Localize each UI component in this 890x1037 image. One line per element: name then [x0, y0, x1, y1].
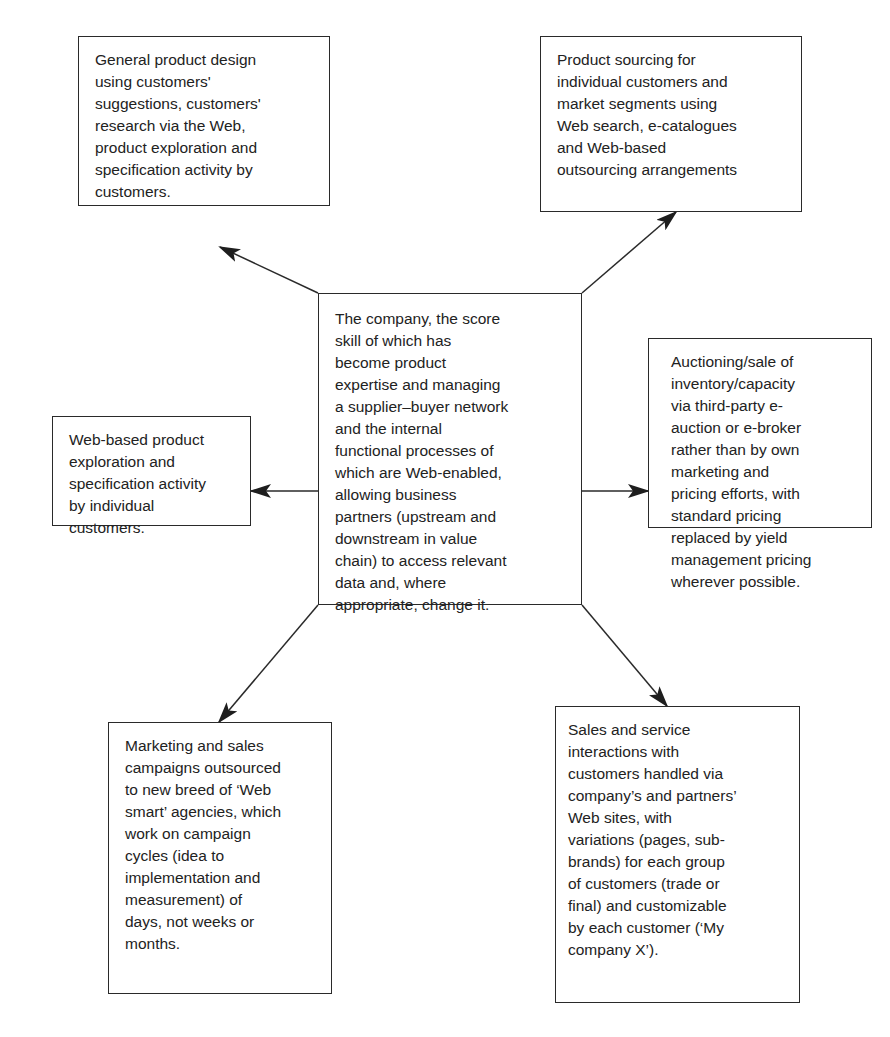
node-top-left: General product design using customers' … — [78, 36, 330, 206]
arrow-to-bottom-right — [582, 605, 667, 706]
arrow-to-top-right — [582, 212, 676, 293]
node-bottom-right: Sales and service interactions with cust… — [555, 706, 800, 1003]
node-left: Web-based product exploration and specif… — [52, 416, 251, 526]
node-right: Auctioning/sale of inventory/capacity vi… — [648, 338, 872, 528]
arrow-to-bottom-left — [219, 605, 318, 722]
node-center: The company, the score skill of which ha… — [318, 293, 582, 605]
diagram-canvas: General product design using customers' … — [0, 0, 890, 1037]
node-bottom-left: Marketing and sales campaigns outsourced… — [108, 722, 332, 994]
node-top-right: Product sourcing for individual customer… — [540, 36, 802, 212]
arrow-to-top-left — [220, 247, 318, 293]
